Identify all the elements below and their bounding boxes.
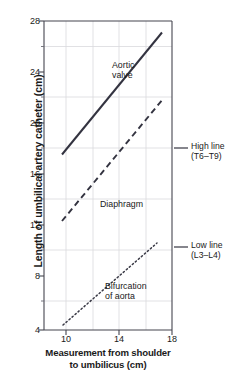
annotation-low-line-line2: (L3–L4) [191,250,223,260]
series-label-diaphragm: Diaphragm [100,199,143,209]
x-axis-title: Measurement from shoulder to umbilicus (… [8,347,208,370]
chart-figure: 28 24 20 16 12 8 4 10 14 18 Length of um… [0,0,237,381]
annotation-high-line-line1: High line [191,141,224,151]
series-label-aortic-valve-line1: Aortic [112,60,135,70]
x-tick-18: 18 [157,335,187,344]
x-axis-title-line2: to umbilicus (cm) [8,359,208,371]
x-tick-10: 10 [51,335,81,344]
series-label-aortic-valve-line2: valve [112,70,133,80]
annotation-high-line-line2: (T6–T9) [191,151,224,161]
series-label-bifurcation-line1: Bifurcation [105,281,147,291]
annotation-high-line: High line (T6–T9) [191,141,224,161]
series-label-diaphragm-line1: Diaphragm [100,199,143,209]
annotation-low-line: Low line (L3–L4) [191,240,223,260]
x-axis-title-line1: Measurement from shoulder [8,347,208,359]
series-line-aortic-valve [62,33,162,155]
x-tick-14: 14 [104,335,134,344]
series-label-bifurcation-of-aorta: Bifurcation of aorta [105,281,147,301]
y-tick-4: 4 [18,326,40,335]
series-label-aortic-valve: Aortic valve [112,60,135,80]
grid-lines-horizontal [44,47,172,302]
annotation-low-line-line1: Low line [191,240,223,250]
y-axis-title: Length of umbilical artery catheter (cm) [32,21,44,321]
series-label-bifurcation-line2: of aorta [105,291,135,301]
